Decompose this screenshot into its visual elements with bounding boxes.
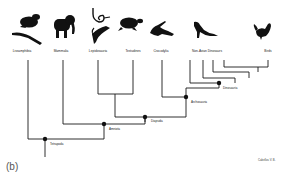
node-amniota <box>102 122 106 126</box>
node-diapsida <box>143 115 147 119</box>
panel-label: (b) <box>6 161 18 172</box>
crocodile-silhouette-icon <box>150 21 174 36</box>
tree-branches <box>28 60 268 157</box>
cladogram: Lissamphibia Mammalia Lepidosauria Testu… <box>0 0 293 179</box>
node-archosauria <box>184 95 188 99</box>
node-label-dinosauria: Dinosauria <box>223 86 238 90</box>
frog-and-salamander-silhouette-icon <box>12 14 42 45</box>
node-label-archosauria: Archosauria <box>191 100 207 104</box>
snake-and-lizard-silhouette-icon <box>92 8 110 44</box>
taxon-label-lepidosauria: Lepidosauria <box>89 49 107 53</box>
node-tetrapoda <box>43 137 47 141</box>
theropod-dinosaur-silhouette-icon <box>194 22 218 38</box>
taxon-label-lissamphibia: Lissamphibia <box>13 49 32 53</box>
taxon-label-birds: Birds <box>264 49 272 53</box>
taxon-label-mammalia: Mammalia <box>54 49 69 53</box>
node-dinosauria <box>217 81 221 85</box>
turtle-silhouette-icon <box>118 18 143 32</box>
taxon-label-testudines: Testudines <box>125 49 141 53</box>
node-label-diapsida: Diapsida <box>151 119 163 123</box>
node-label-tetrapoda: Tetrapoda <box>50 142 64 146</box>
taxon-label-crocodylia: Crocodylia <box>153 49 168 53</box>
elephant-silhouette-icon <box>54 15 75 38</box>
credit-text: Cabellos V. B. <box>258 158 276 162</box>
node-label-amniota: Amniota <box>109 127 120 131</box>
taxon-label-non-avian-dinosaurs: Non-Avian Dinosaurs <box>192 49 222 53</box>
rooster-silhouette-icon <box>254 23 271 40</box>
